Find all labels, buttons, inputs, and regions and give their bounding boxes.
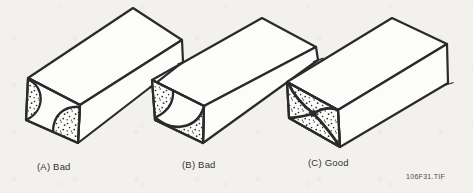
box-c-drawing <box>287 18 454 147</box>
panel-b-label: (B) Bad <box>182 160 216 170</box>
filename-caption: 106F31.TIF <box>406 173 445 181</box>
box-beam-diagram <box>0 0 473 193</box>
box-c-center-blob <box>310 110 316 116</box>
panel-c-label: (C) Good <box>308 158 349 168</box>
panel-a-label: (A) Bad <box>37 162 71 172</box>
scanned-figure-canvas: (A) Bad (B) Bad (C) Good 106F31.TIF <box>0 0 473 193</box>
